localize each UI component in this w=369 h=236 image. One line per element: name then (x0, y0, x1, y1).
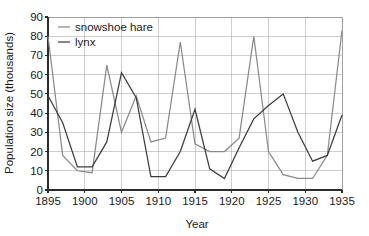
x-axis-tick-labels: 189519001905191019151920192519301935 (35, 190, 355, 207)
x-tick-label: 1935 (329, 195, 355, 207)
y-tick-label: 40 (30, 107, 43, 119)
x-axis-title: Year (185, 218, 208, 230)
y-tick-label: 90 (30, 11, 43, 23)
chart-canvas: 0102030405060708090 18951900190519101915… (0, 0, 369, 236)
x-tick-label: 1920 (219, 195, 245, 207)
y-axis-title: Population size (thousands) (3, 32, 15, 174)
legend-label-snowshoe-hare: snowshoe hare (75, 21, 153, 33)
legend: snowshoe harelynx (58, 21, 153, 48)
y-axis-tick-labels: 0102030405060708090 (30, 11, 48, 196)
x-tick-label: 1910 (145, 195, 171, 207)
y-tick-label: 60 (30, 69, 43, 81)
x-tick-label: 1930 (292, 195, 318, 207)
y-tick-label: 30 (30, 126, 43, 138)
y-tick-label: 50 (30, 88, 43, 100)
population-line-chart: 0102030405060708090 18951900190519101915… (0, 0, 369, 236)
x-tick-label: 1900 (72, 195, 98, 207)
x-tick-label: 1925 (256, 195, 282, 207)
legend-label-lynx: lynx (75, 36, 96, 48)
y-tick-label: 10 (30, 165, 43, 177)
x-tick-label: 1905 (109, 195, 135, 207)
y-tick-label: 70 (30, 49, 43, 61)
y-tick-label: 20 (30, 146, 43, 158)
x-tick-label: 1895 (35, 195, 61, 207)
y-tick-label: 80 (30, 30, 43, 42)
x-tick-label: 1915 (182, 195, 208, 207)
